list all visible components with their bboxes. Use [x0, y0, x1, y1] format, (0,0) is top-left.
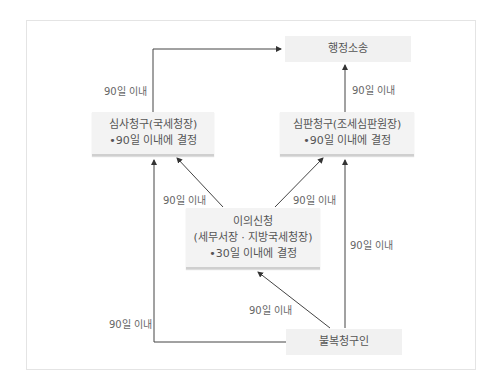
node-review-title: 심사청구(국세청장) — [92, 117, 214, 133]
node-trial-note: •90일 이내에 결정 — [280, 133, 414, 149]
edge-label-trial-litigation: 90일 이내 — [352, 82, 395, 97]
node-review-note: •90일 이내에 결정 — [92, 133, 214, 149]
edge-label-objection-review: 90일 이내 — [163, 192, 206, 207]
node-litigation-label: 행정소송 — [285, 41, 411, 57]
node-objection-note: •30일 이내에 결정 — [186, 246, 320, 262]
connector-lines — [0, 0, 502, 391]
node-trial-title: 심판청구(조세심판원장) — [280, 117, 414, 133]
edge-label-claimant-objection: 90일 이내 — [249, 302, 292, 317]
edge-label-review-litigation: 90일 이내 — [104, 83, 147, 98]
node-objection: 이의신청 (세무서장 · 지방국세청장) •30일 이내에 결정 — [186, 208, 320, 269]
node-objection-authority: (세무서장 · 지방국세청장) — [186, 230, 320, 246]
edge-label-claimant-review: 90일 이내 — [109, 316, 152, 331]
node-claimant-label: 불복청구인 — [286, 334, 402, 350]
edge-label-claimant-trial: 90일 이내 — [350, 237, 393, 252]
node-claimant: 불복청구인 — [286, 329, 402, 355]
node-review: 심사청구(국세청장) •90일 이내에 결정 — [92, 112, 214, 156]
node-objection-title: 이의신청 — [186, 214, 320, 230]
node-trial: 심판청구(조세심판원장) •90일 이내에 결정 — [280, 112, 414, 156]
node-litigation: 행정소송 — [285, 36, 411, 62]
edge-label-objection-trial: 90일 이내 — [293, 192, 336, 207]
